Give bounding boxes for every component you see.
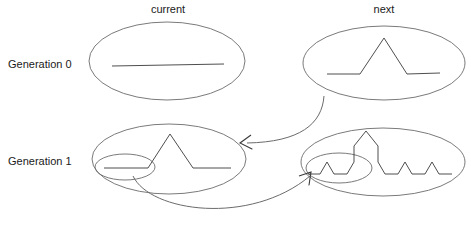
inner-ellipse-gen1-next-subgenerator: [306, 153, 372, 183]
cell-gen0-next: [303, 26, 465, 100]
shape-koch-generator: [327, 38, 440, 74]
arrow-curve-next-to-current: [247, 96, 324, 143]
cell-gen1-next: [301, 128, 465, 196]
koch-generation-diagram: current next Generation 0 Generation 1: [0, 0, 471, 225]
ellipse-gen1-current: [92, 124, 246, 194]
inner-ellipse-gen1-current-segment: [95, 154, 155, 180]
shape-koch-generator-gen1: [104, 134, 231, 168]
arrow-generator-to-current: [240, 96, 324, 149]
ellipse-gen0-next: [303, 26, 465, 100]
arrow-curve-segment-to-subgenerator: [133, 176, 310, 208]
shape-straight-line-initiator: [112, 64, 224, 66]
diagram-canvas: [0, 0, 471, 225]
arrow-segment-to-subgenerator: [133, 172, 311, 208]
shape-koch-curve-iteration-2: [308, 131, 452, 174]
cell-gen0-current: [89, 22, 245, 100]
ellipse-gen0-current: [89, 22, 245, 100]
cell-gen1-current: [92, 124, 246, 194]
ellipse-gen1-next: [301, 128, 465, 196]
